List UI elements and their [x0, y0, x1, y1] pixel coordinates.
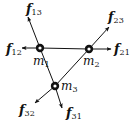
label-m3: m3 — [61, 79, 77, 94]
label-f21: f21 — [113, 41, 130, 57]
mass-node-m2 — [85, 45, 93, 53]
label-m1: m1 — [33, 54, 49, 69]
label-m2: m2 — [83, 54, 99, 69]
label-f31: f31 — [65, 105, 82, 121]
mass-node-m3 — [51, 82, 59, 90]
label-f13: f13 — [25, 1, 42, 17]
label-f12: f12 — [5, 41, 22, 57]
arrow-f23 — [89, 27, 109, 49]
mass-node-m1 — [36, 44, 44, 52]
arrow-f13 — [28, 17, 40, 48]
force-diagram: m1 m2 m3 f13 f12 f23 f21 f32 f31 — [0, 0, 135, 130]
link-m1-m2 — [40, 48, 89, 49]
label-f23: f23 — [107, 9, 124, 25]
label-f32: f32 — [18, 102, 35, 118]
